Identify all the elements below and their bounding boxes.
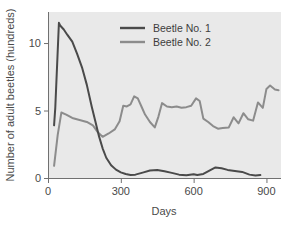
y-axis-ticks [44, 44, 48, 179]
x-tick-label: 600 [184, 185, 202, 197]
x-axis-title: Days [151, 205, 177, 217]
y-tick-label: 0 [35, 172, 41, 184]
x-tick-label: 300 [112, 185, 130, 197]
y-axis-tick-labels: 0510 [29, 37, 41, 184]
y-tick-label: 5 [35, 105, 41, 117]
x-tick-label: 0 [45, 185, 51, 197]
beetle-population-line-chart: 0510 0300600900 Beetle No. 1Beetle No. 2… [0, 0, 289, 232]
x-axis-tick-labels: 0300600900 [45, 185, 276, 197]
y-axis-title: Number of adult beetles (hundreds) [4, 8, 16, 181]
legend-label-1: Beetle No. 1 [153, 22, 211, 34]
legend-label-2: Beetle No. 2 [153, 36, 211, 48]
y-tick-label: 10 [29, 37, 41, 49]
chart-figure: 0510 0300600900 Beetle No. 1Beetle No. 2… [0, 0, 289, 232]
x-tick-label: 900 [257, 185, 275, 197]
